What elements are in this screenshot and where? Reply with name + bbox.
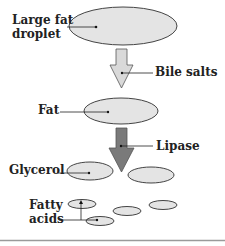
bile-salts-arrow xyxy=(110,49,153,88)
label-fatty-acids-line2: acids xyxy=(29,213,64,226)
label-bile-salts: Bile salts xyxy=(155,66,217,79)
label-fatty-acids-line1: Fatty xyxy=(29,199,63,212)
label-glycerol: Glycerol xyxy=(9,164,65,177)
label-lipase: Lipase xyxy=(156,140,200,153)
glycerol-ellipse xyxy=(58,162,113,180)
label-large-fat-droplet-line1: Large fat xyxy=(12,14,73,27)
fat-ellipse xyxy=(60,98,158,124)
label-large-fat-droplet-line2: droplet xyxy=(12,28,61,41)
ellipse-right xyxy=(128,167,174,183)
fatty-acid-ellipses xyxy=(68,200,177,226)
lipase-arrow xyxy=(109,128,153,172)
label-fat: Fat xyxy=(38,104,59,117)
large-fat-droplet xyxy=(67,7,177,45)
